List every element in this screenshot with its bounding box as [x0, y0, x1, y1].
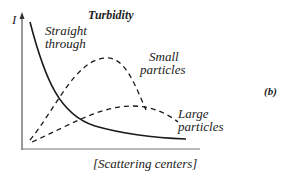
panel-label: (b)	[264, 85, 277, 98]
label-line: through	[45, 37, 87, 50]
label-line: particles	[178, 120, 224, 133]
label-small-particles: Small particles	[140, 50, 186, 76]
label-large-particles: Large particles	[178, 107, 224, 133]
curve-small-particles	[30, 58, 146, 140]
y-axis-arrow-icon	[20, 12, 25, 19]
label-straight-through: Straight through	[45, 24, 87, 50]
y-axis-label: I	[12, 13, 16, 26]
diagram-title: Turbidity	[88, 9, 134, 22]
label-line: particles	[140, 63, 186, 76]
turbidity-diagram	[0, 0, 291, 177]
x-axis-label: [Scattering centers]	[93, 157, 197, 170]
